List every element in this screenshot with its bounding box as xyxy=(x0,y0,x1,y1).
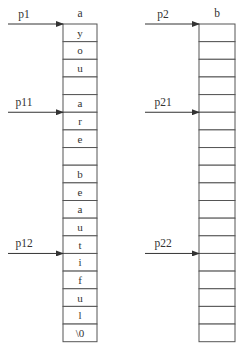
pointer-label: p22 xyxy=(154,237,172,250)
array-cell xyxy=(199,112,235,130)
cell-box xyxy=(199,59,235,77)
cell-box xyxy=(199,112,235,130)
array-cell: b xyxy=(63,165,97,183)
pointer-label: p11 xyxy=(16,96,33,109)
array-cell xyxy=(199,201,235,219)
cell-value: u xyxy=(77,221,83,233)
cell-box xyxy=(199,201,235,219)
cell-box xyxy=(199,306,235,324)
array-cell xyxy=(199,77,235,95)
cell-value: r xyxy=(78,115,82,127)
cell-box xyxy=(199,148,235,166)
cell-value: f xyxy=(78,274,82,286)
array-cell: u xyxy=(63,59,97,77)
array-a: ayouarebeautiful\0 xyxy=(63,7,97,342)
cell-box xyxy=(199,42,235,60)
array-cell: a xyxy=(63,201,97,219)
cell-value: a xyxy=(78,97,83,109)
array-cell xyxy=(199,289,235,307)
array-cell xyxy=(199,95,235,113)
array-cell xyxy=(199,183,235,201)
array-cell: e xyxy=(63,183,97,201)
array-cell: a xyxy=(63,95,97,113)
pointer-label: p1 xyxy=(18,8,30,21)
array-cell: f xyxy=(63,271,97,289)
cell-box xyxy=(63,77,97,95)
cell-value: b xyxy=(77,168,83,180)
pointer-p1: p1 xyxy=(8,8,63,24)
array-cell xyxy=(199,59,235,77)
array-cell xyxy=(199,236,235,254)
array-cell: l xyxy=(63,306,97,324)
pointer-p12: p12 xyxy=(8,237,63,253)
array-cell: t xyxy=(63,236,97,254)
cell-box xyxy=(199,165,235,183)
array-cell xyxy=(199,306,235,324)
cell-box xyxy=(199,218,235,236)
array-cell: u xyxy=(63,218,97,236)
cell-box xyxy=(199,77,235,95)
cell-value: u xyxy=(77,292,83,304)
cell-box xyxy=(63,148,97,166)
pointer-label: p2 xyxy=(157,8,169,21)
cell-box xyxy=(199,253,235,271)
cell-box xyxy=(199,289,235,307)
pointer-p21: p21 xyxy=(145,96,199,112)
array-cell xyxy=(199,253,235,271)
cell-value: \0 xyxy=(76,327,85,339)
cell-box xyxy=(199,236,235,254)
array-b: b xyxy=(199,7,235,342)
array-cell xyxy=(199,218,235,236)
array-cell: u xyxy=(63,289,97,307)
cell-value: e xyxy=(78,133,83,145)
cell-value: l xyxy=(78,309,81,321)
pointer-p2: p2 xyxy=(145,8,199,24)
array-cell: i xyxy=(63,253,97,271)
array-cell xyxy=(199,130,235,148)
cell-box xyxy=(199,183,235,201)
cell-value: u xyxy=(77,62,83,74)
array-cell xyxy=(199,148,235,166)
cell-box xyxy=(199,271,235,289)
array-cell: o xyxy=(63,42,97,60)
array-cell xyxy=(199,324,235,342)
array-cell xyxy=(63,148,97,166)
array-cell xyxy=(199,271,235,289)
cell-value: e xyxy=(78,186,83,198)
pointer-p22: p22 xyxy=(145,237,199,253)
array-cell xyxy=(199,24,235,42)
array-cell xyxy=(199,42,235,60)
cell-box xyxy=(199,24,235,42)
array-cell: \0 xyxy=(63,324,97,342)
pointer-label: p21 xyxy=(154,96,172,109)
cell-box xyxy=(199,130,235,148)
array-cell xyxy=(199,165,235,183)
cell-value: t xyxy=(78,239,81,251)
array-cell xyxy=(63,77,97,95)
cell-value: i xyxy=(78,256,81,268)
array-cell: y xyxy=(63,24,97,42)
cell-box xyxy=(199,95,235,113)
pointer-p11: p11 xyxy=(8,96,63,112)
pointer-array-diagram: ayouarebeautiful\0p1p11p12bp2p21p22 xyxy=(0,0,238,349)
array-cell: e xyxy=(63,130,97,148)
cell-value: a xyxy=(78,203,83,215)
array-name-label: b xyxy=(214,7,220,19)
array-cell: r xyxy=(63,112,97,130)
cell-value: o xyxy=(77,44,83,56)
pointer-label: p12 xyxy=(15,237,33,250)
cell-value: y xyxy=(77,27,83,39)
cell-box xyxy=(199,324,235,342)
array-name-label: a xyxy=(77,7,82,19)
